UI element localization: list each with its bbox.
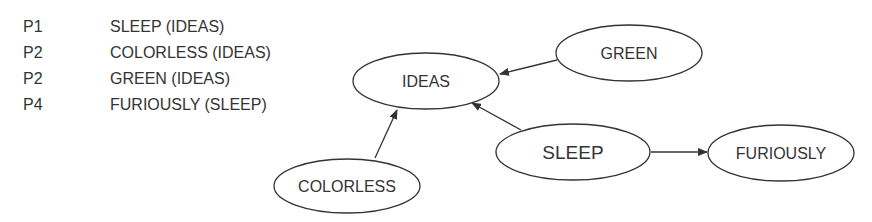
- node-sleep-label: SLEEP: [542, 142, 603, 163]
- node-ideas-label: IDEAS: [402, 73, 450, 90]
- dependency-graph: IDEAS GREEN SLEEP FURIOUSLY COLORLESS: [0, 0, 872, 222]
- node-colorless: COLORLESS: [274, 159, 420, 213]
- node-furiously-label: FURIOUSLY: [736, 145, 827, 162]
- edge-sleep-to-ideas: [472, 103, 521, 130]
- node-ideas: IDEAS: [353, 53, 499, 109]
- node-furiously: FURIOUSLY: [708, 125, 854, 181]
- node-green: GREEN: [556, 25, 702, 81]
- edge-green-to-ideas: [500, 60, 557, 74]
- node-green-label: GREEN: [601, 45, 658, 62]
- node-colorless-label: COLORLESS: [298, 178, 396, 195]
- node-sleep: SLEEP: [496, 124, 650, 180]
- edge-colorless-to-ideas: [375, 110, 397, 158]
